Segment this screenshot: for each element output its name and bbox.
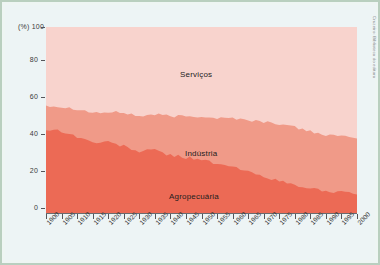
y-tick-label-80: 80 (14, 56, 38, 63)
y-tick-mark-20 (41, 171, 45, 172)
series-label-agropecuaria: Agropecuária (169, 192, 219, 201)
y-tick-mark-40 (41, 134, 45, 135)
y-tick-label-60: 60 (14, 93, 38, 100)
figure-container: (%) 100 80 60 40 20 0 Serviços Indústria… (0, 0, 380, 265)
y-axis-unit: (%) (18, 23, 30, 30)
y-tick-mark-100 (41, 27, 45, 28)
y-tick-mark-60 (41, 97, 45, 98)
area-chart-svg (46, 27, 357, 213)
image-credit: Cruzeiro: Biblioteca do editora (372, 16, 377, 78)
y-tick-mark-80 (41, 60, 45, 61)
y-tick-mark-0 (41, 208, 45, 209)
stacked-area-plot: Serviços Indústria Agropecuária (46, 27, 357, 213)
y-axis-unit-and-max: (%) 100 (4, 23, 44, 30)
y-tick-label-0: 0 (14, 204, 38, 211)
y-tick-label-40: 40 (14, 130, 38, 137)
series-label-industria: Indústria (185, 149, 217, 158)
y-tick-label-20: 20 (14, 167, 38, 174)
series-label-servicos: Serviços (180, 70, 212, 79)
